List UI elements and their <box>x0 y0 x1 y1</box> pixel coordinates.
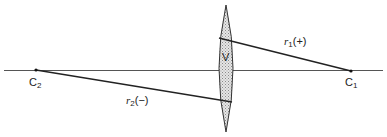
r2-label: r2(−) <box>126 94 148 108</box>
r1-label: r1(+) <box>284 35 306 49</box>
c2-label: C2 <box>29 76 42 90</box>
lens-diagram: C2 C1 V r1(+) r2(−) <box>0 0 387 137</box>
c1-label: C1 <box>345 76 358 90</box>
c1-point <box>349 69 352 72</box>
c2-point <box>34 68 37 71</box>
vertex-label: V <box>222 51 230 63</box>
lens <box>219 5 233 132</box>
